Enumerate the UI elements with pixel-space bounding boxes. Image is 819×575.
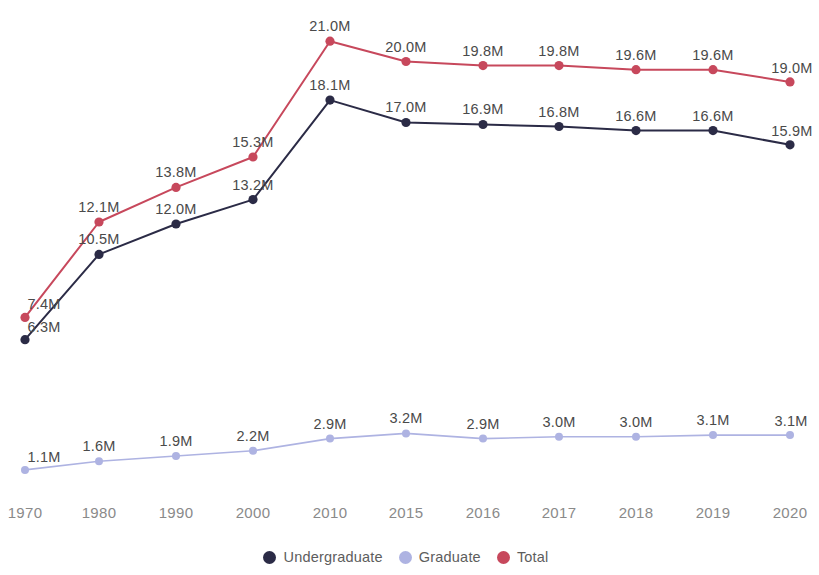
data-point-label: 17.0M — [385, 100, 426, 115]
x-axis-tick-1980: 1980 — [82, 505, 117, 520]
data-point-marker[interactable] — [95, 457, 103, 465]
data-point-marker[interactable] — [555, 433, 563, 441]
data-point-marker[interactable] — [785, 140, 794, 149]
data-point-marker[interactable] — [554, 122, 563, 131]
data-point-marker[interactable] — [479, 435, 487, 443]
data-point-marker[interactable] — [708, 126, 717, 135]
data-point-label: 13.8M — [155, 165, 196, 180]
data-point-label: 19.6M — [615, 47, 656, 62]
chart-legend: UndergraduateGraduateTotal — [0, 549, 819, 565]
x-axis-tick-2010: 2010 — [313, 505, 348, 520]
data-point-marker[interactable] — [401, 57, 410, 66]
data-point-marker[interactable] — [554, 61, 563, 70]
x-axis-tick-2018: 2018 — [619, 505, 654, 520]
legend-label: Total — [517, 549, 549, 565]
data-point-label: 3.1M — [696, 413, 729, 428]
data-point-marker[interactable] — [632, 433, 640, 441]
line-chart: 6.3M10.5M12.0M13.2M18.1M17.0M16.9M16.8M1… — [0, 0, 819, 575]
legend-label: Graduate — [419, 549, 481, 565]
data-point-label: 19.8M — [462, 43, 503, 58]
x-axis-tick-2017: 2017 — [542, 505, 577, 520]
data-point-label: 13.2M — [232, 177, 273, 192]
data-point-marker[interactable] — [708, 65, 717, 74]
data-point-marker[interactable] — [171, 219, 180, 228]
data-point-marker[interactable] — [709, 431, 717, 439]
chart-plot-area — [0, 0, 819, 575]
data-point-marker[interactable] — [20, 335, 29, 344]
data-point-label: 20.0M — [385, 39, 426, 54]
data-point-marker[interactable] — [94, 250, 103, 259]
data-point-label: 3.0M — [619, 414, 652, 429]
data-point-label: 2.9M — [466, 416, 499, 431]
data-point-label: 15.3M — [232, 134, 273, 149]
data-point-label: 21.0M — [309, 19, 350, 34]
x-axis-tick-2016: 2016 — [466, 505, 501, 520]
legend-swatch-circle-icon — [263, 551, 276, 564]
data-point-label: 12.0M — [155, 201, 196, 216]
data-point-label: 19.8M — [538, 43, 579, 58]
data-point-marker[interactable] — [402, 429, 410, 437]
data-point-label: 19.6M — [692, 47, 733, 62]
data-point-marker[interactable] — [248, 195, 257, 204]
data-point-marker[interactable] — [248, 152, 257, 161]
data-point-marker[interactable] — [21, 466, 29, 474]
data-point-label: 16.8M — [538, 104, 579, 119]
x-axis-tick-2015: 2015 — [389, 505, 424, 520]
data-point-label: 2.2M — [236, 428, 269, 443]
x-axis-tick-2019: 2019 — [696, 505, 731, 520]
data-point-marker[interactable] — [325, 37, 334, 46]
legend-item-undergraduate[interactable]: Undergraduate — [263, 549, 382, 565]
data-point-label: 2.9M — [313, 416, 346, 431]
legend-swatch-circle-icon — [497, 551, 510, 564]
data-point-label: 1.6M — [82, 439, 115, 454]
data-point-label: 19.0M — [771, 60, 812, 75]
data-point-label: 1.9M — [159, 433, 192, 448]
data-point-marker[interactable] — [401, 118, 410, 127]
data-point-label: 18.1M — [309, 78, 350, 93]
data-point-marker[interactable] — [786, 431, 794, 439]
x-axis-tick-1990: 1990 — [159, 505, 194, 520]
data-point-marker[interactable] — [326, 435, 334, 443]
data-point-marker[interactable] — [249, 447, 257, 455]
data-point-marker[interactable] — [171, 183, 180, 192]
x-axis-tick-2000: 2000 — [236, 505, 271, 520]
data-point-marker[interactable] — [172, 452, 180, 460]
x-axis-tick-1970: 1970 — [8, 505, 43, 520]
data-point-label: 3.0M — [542, 414, 575, 429]
legend-item-graduate[interactable]: Graduate — [399, 549, 481, 565]
legend-label: Undergraduate — [283, 549, 382, 565]
data-point-marker[interactable] — [631, 126, 640, 135]
data-point-label: 3.1M — [774, 414, 807, 429]
data-point-label: 15.9M — [771, 123, 812, 138]
data-point-label: 16.9M — [462, 102, 503, 117]
data-point-label: 3.2M — [389, 411, 422, 426]
data-point-label: 16.6M — [692, 108, 733, 123]
series-line-total — [25, 41, 790, 317]
legend-swatch-circle-icon — [399, 551, 412, 564]
data-point-label: 7.4M — [27, 297, 60, 312]
data-point-marker[interactable] — [325, 96, 334, 105]
data-point-label: 16.6M — [615, 108, 656, 123]
data-point-marker[interactable] — [631, 65, 640, 74]
data-point-marker[interactable] — [94, 217, 103, 226]
series-line-graduate — [25, 433, 790, 470]
legend-item-total[interactable]: Total — [497, 549, 549, 565]
data-point-marker[interactable] — [478, 120, 487, 129]
data-point-label: 1.1M — [27, 449, 60, 464]
data-point-label: 12.1M — [78, 199, 119, 214]
data-point-marker[interactable] — [785, 77, 794, 86]
data-point-marker[interactable] — [478, 61, 487, 70]
x-axis-tick-2020: 2020 — [773, 505, 808, 520]
data-point-label: 6.3M — [27, 319, 60, 334]
series-line-undergraduate — [25, 100, 790, 340]
data-point-label: 10.5M — [78, 232, 119, 247]
